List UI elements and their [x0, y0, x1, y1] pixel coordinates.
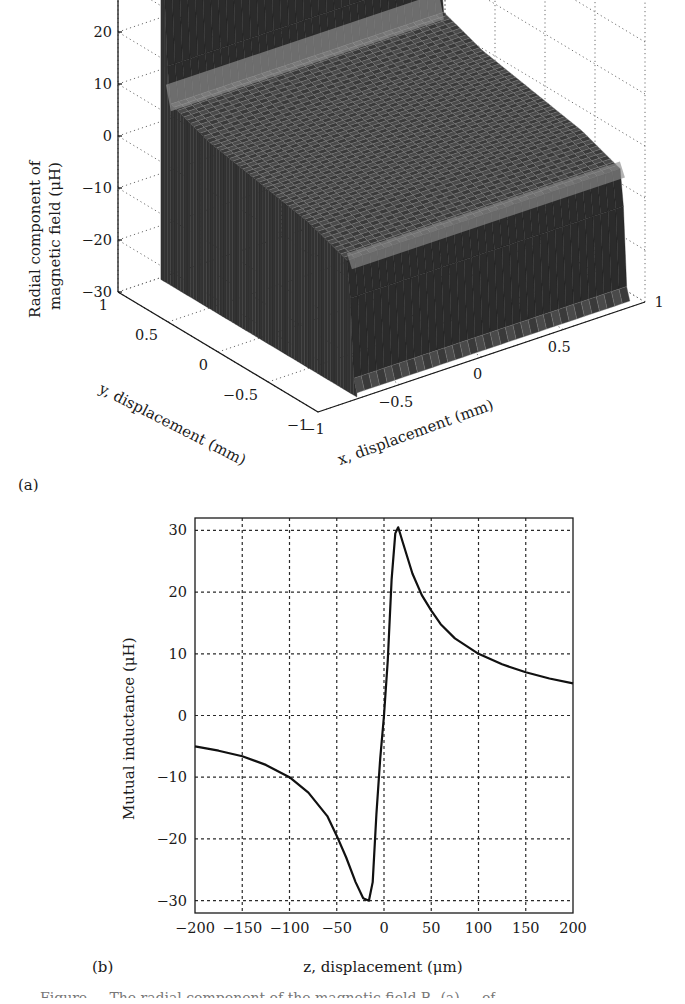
y-tick-label: 30: [169, 522, 187, 538]
x-tick-label: 50: [422, 920, 440, 936]
x-tick-label: 200: [559, 920, 587, 936]
x-tick-label: 100: [465, 920, 493, 936]
y-tick-label: 20: [169, 584, 187, 600]
y-tick-label: −20: [156, 831, 187, 847]
y-tick-label: 10: [169, 646, 187, 662]
y-tick-label: −30: [156, 893, 187, 909]
y-tick-label: 0: [178, 708, 187, 724]
x-tick-label: −50: [321, 920, 352, 936]
x-tick-label: 150: [512, 920, 540, 936]
y-axis-ticks: 3020100−10−20−30: [156, 522, 187, 908]
x-axis-label: z, displacement (μm): [303, 958, 462, 976]
line-chart: 3020100−10−20−30 −200−150−100−5005010015…: [0, 0, 685, 1004]
x-axis-ticks: −200−150−100−50050100150200: [175, 920, 587, 936]
panel-b-label: (b): [92, 958, 113, 976]
y-axis-label: Mutual inductance (μH): [120, 637, 138, 820]
y-tick-label: −10: [156, 769, 187, 785]
x-tick-label: −200: [175, 920, 215, 936]
x-tick-label: −150: [222, 920, 262, 936]
x-tick-label: 0: [379, 920, 388, 936]
x-tick-label: −100: [270, 920, 310, 936]
